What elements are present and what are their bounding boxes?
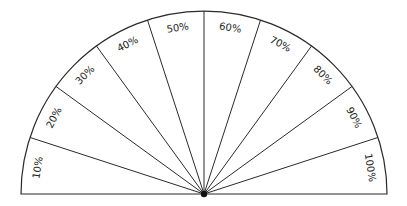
sector-label: 10% <box>30 156 44 180</box>
percentage-semicircle-diagram: 10%20%30%40%50%60%70%80%90%100% <box>0 0 407 206</box>
sector-label: 40% <box>115 34 140 54</box>
sector-dividers <box>30 11 378 194</box>
sector-divider <box>56 86 204 194</box>
sector-label: 20% <box>44 105 64 130</box>
center-hub <box>201 191 207 197</box>
sector-label: 80% <box>311 63 335 87</box>
semicircle-gauge: 10%20%30%40%50%60%70%80%90%100% <box>0 0 407 206</box>
sector-divider <box>204 20 261 194</box>
sector-divider <box>147 20 204 194</box>
sector-label: 30% <box>73 63 97 87</box>
sector-divider <box>30 137 204 194</box>
sector-divider <box>204 86 352 194</box>
sector-label: 50% <box>166 20 190 34</box>
sector-label: 70% <box>268 34 293 54</box>
sector-divider <box>96 46 204 194</box>
sector-label: 60% <box>219 20 243 34</box>
sector-label: 90% <box>344 105 364 130</box>
sector-divider <box>204 137 378 194</box>
sector-divider <box>204 46 312 194</box>
sector-label: 100% <box>363 153 378 183</box>
